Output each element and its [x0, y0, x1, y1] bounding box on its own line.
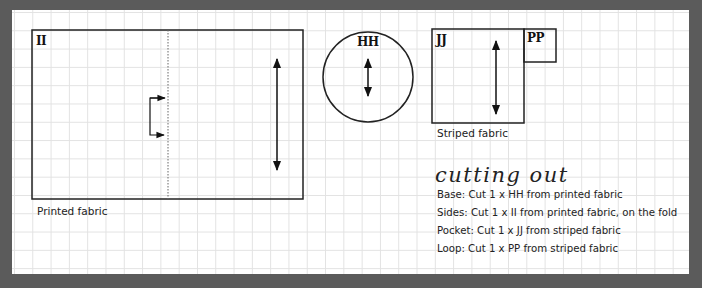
piece-ii: [32, 30, 303, 199]
fabric-caption-printed: Printed fabric: [37, 205, 107, 217]
cutting-instruction-base: Base: Cut 1 x HH from printed fabric: [437, 189, 623, 200]
cutting-instruction-loop: Loop: Cut 1 x PP from striped fabric: [437, 243, 618, 254]
piece-label-pp: PP: [527, 31, 544, 45]
piece-label-jj: JJ: [436, 33, 446, 47]
place-on-fold-icon: [150, 98, 164, 135]
piece-label-ii: II: [36, 34, 46, 48]
fabric-caption-striped: Striped fabric: [437, 127, 508, 139]
cutting-instruction-pocket: Pocket: Cut 1 x JJ from striped fabric: [437, 225, 621, 236]
cutting-out-heading: cutting out: [435, 163, 569, 187]
cutting-instruction-sides: Sides: Cut 1 x II from printed fabric, o…: [437, 207, 677, 218]
piece-label-hh: HH: [357, 35, 379, 49]
